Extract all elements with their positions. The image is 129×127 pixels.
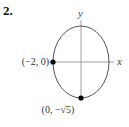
y-axis-label: y — [77, 7, 83, 19]
point-left-vertex — [50, 59, 55, 64]
point-bottom-vertex — [78, 95, 83, 100]
x-axis-label: x — [116, 55, 122, 67]
point-label-left: (−2, 0) — [22, 56, 49, 68]
point-label-bottom: (0, −√5) — [42, 104, 75, 116]
ellipse-diagram: y x (−2, 0) (0, −√5) — [0, 0, 129, 127]
